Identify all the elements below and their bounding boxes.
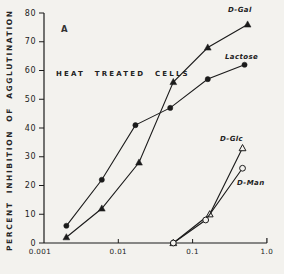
y-tick-label: 10 — [25, 210, 36, 219]
series-line-d-gal — [66, 25, 247, 238]
y-tick-label: 50 — [25, 95, 36, 104]
open-circle-marker — [203, 217, 209, 223]
filled-triangle-marker — [204, 44, 211, 50]
x-tick-label: 1.0 — [261, 247, 274, 256]
filled-circle-marker — [205, 77, 210, 82]
filled-circle-marker — [242, 62, 247, 67]
series-line-d-glc — [173, 148, 242, 243]
y-tick-label: 70 — [25, 37, 36, 46]
series-label-d-glc: D-Glc — [220, 135, 243, 143]
filled-triangle-marker — [63, 234, 70, 240]
filled-triangle-marker — [244, 21, 251, 27]
filled-triangle-marker — [136, 159, 143, 165]
x-tick-label: 0.01 — [109, 247, 127, 256]
y-tick-label: 30 — [25, 152, 36, 161]
x-tick-label: 0.001 — [29, 247, 52, 256]
open-circle-marker — [240, 165, 246, 171]
filled-circle-marker — [168, 105, 173, 110]
y-tick-label: 20 — [25, 181, 36, 190]
y-axis-title: PERCENT INHIBITION OF AGGLUTINATION — [5, 9, 14, 251]
y-tick-label: 80 — [25, 9, 36, 18]
open-circle-marker — [170, 240, 176, 246]
series-label-d-gal: D-Gal — [228, 6, 252, 14]
series-line-d-man — [173, 168, 242, 243]
filled-circle-marker — [99, 177, 104, 182]
series-line-lactose — [66, 65, 244, 226]
open-triangle-marker — [239, 145, 246, 151]
y-tick-label: 40 — [25, 124, 36, 133]
y-tick-label: 60 — [25, 66, 36, 75]
heat-treated-cells-annotation: HEAT TREATED CELLS — [56, 70, 190, 78]
agglutination-inhibition-figure: 010203040506070800.0010.010.11.0 PERCENT… — [0, 0, 284, 274]
panel-label: A — [61, 24, 69, 34]
series-label-lactose: Lactose — [225, 53, 258, 61]
filled-circle-marker — [64, 223, 69, 228]
x-tick-label: 0.1 — [186, 247, 199, 256]
filled-circle-marker — [133, 123, 138, 128]
series-label-d-man: D-Man — [237, 179, 265, 187]
